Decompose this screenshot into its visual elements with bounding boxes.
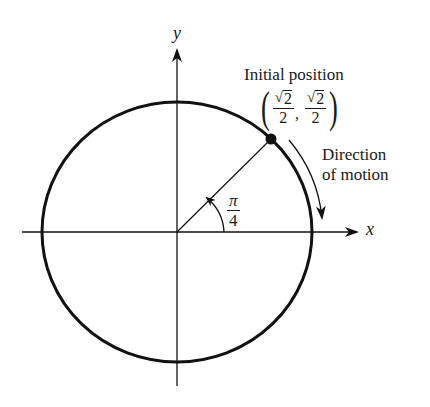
x-radicand: 2	[283, 90, 292, 108]
direction-arrow-icon	[289, 140, 322, 218]
initial-position-caption: Initial position	[244, 66, 344, 83]
y-radicand: 2	[315, 90, 324, 108]
x-denominator: 2	[279, 109, 287, 126]
initial-point	[266, 134, 277, 145]
open-paren: (	[261, 86, 270, 130]
y-coordinate: √2 2	[305, 90, 326, 127]
angle-denominator: 4	[229, 211, 238, 229]
coordinate-separator: ,	[295, 94, 299, 122]
angle-numerator: π	[227, 192, 240, 211]
direction-caption-line1: Direction	[322, 146, 386, 163]
x-coordinate: √2 2	[273, 90, 294, 127]
sqrt-icon: √	[307, 90, 315, 105]
radius-line	[177, 139, 271, 232]
y-axis-label: y	[173, 24, 181, 42]
point-coordinates: ( √2 2 , √2 2 )	[258, 86, 341, 130]
angle-label: π 4	[227, 192, 240, 229]
direction-caption-line2: of motion	[322, 166, 389, 183]
y-denominator: 2	[312, 109, 320, 126]
close-paren: )	[329, 86, 338, 130]
angle-arc-icon	[207, 198, 224, 232]
sqrt-icon: √	[275, 90, 283, 105]
x-axis-label: x	[366, 220, 374, 238]
unit-circle-diagram	[0, 0, 430, 407]
